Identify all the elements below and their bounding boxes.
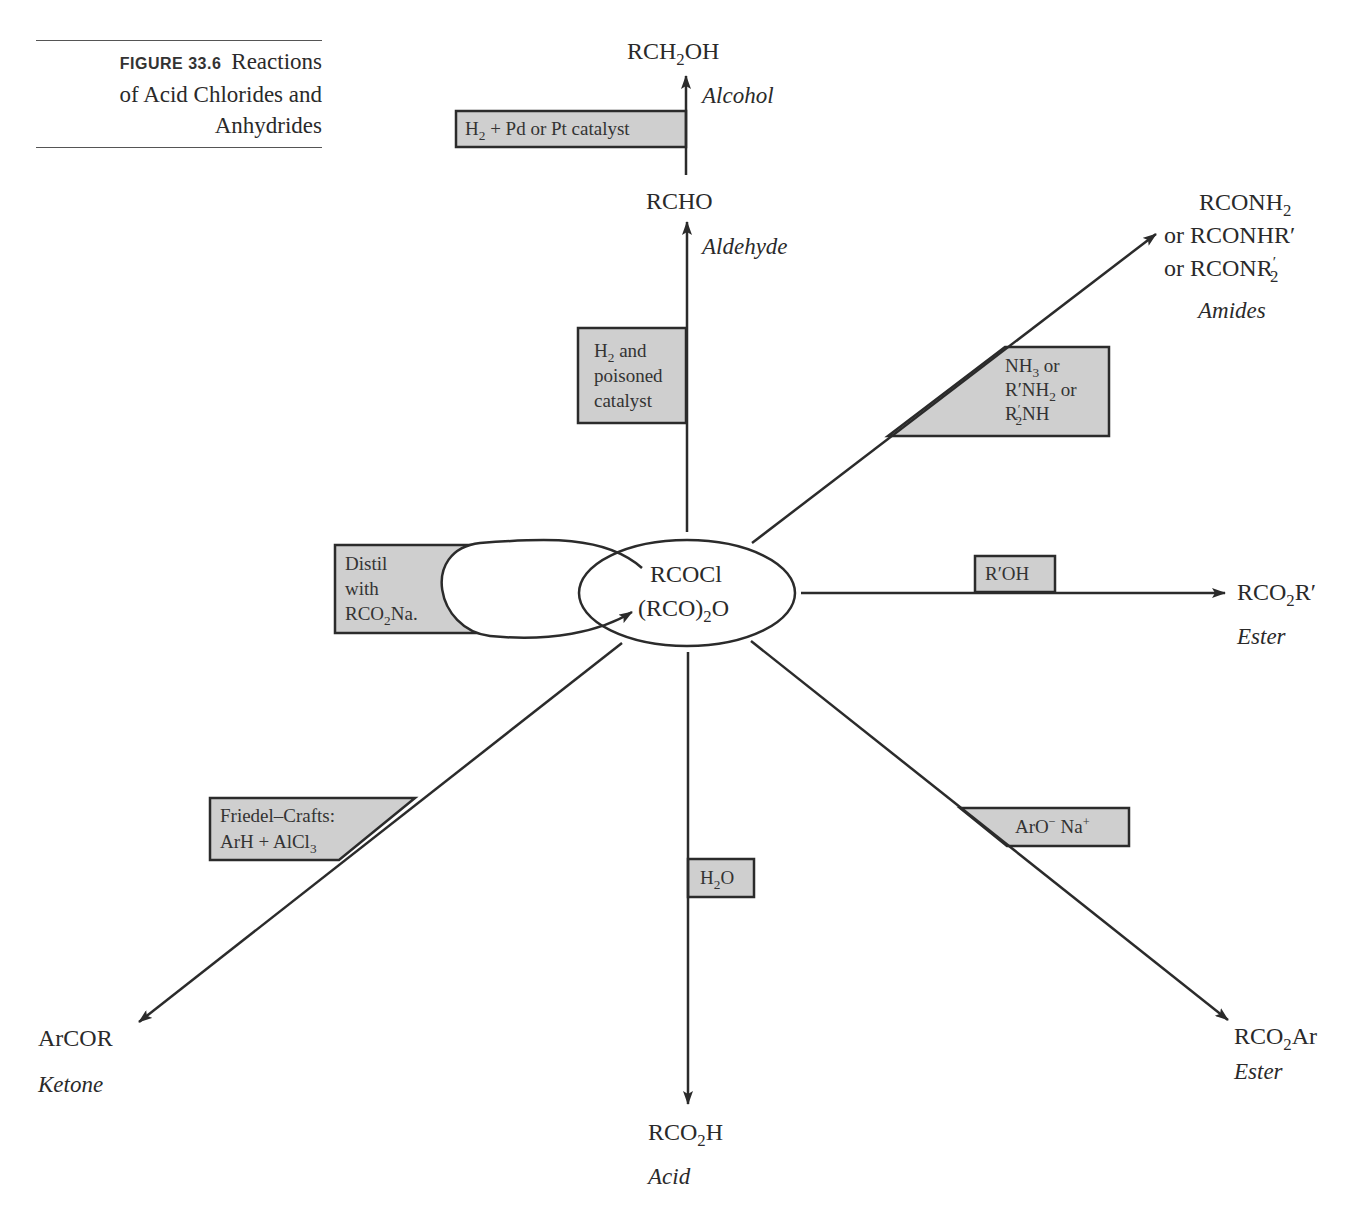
formula-part: H (700, 867, 714, 888)
subscript: 2 (697, 1131, 705, 1150)
subscript: 2 (1270, 267, 1278, 286)
product-alcohol-formula: RCH2OH (627, 37, 719, 65)
product-aldehyde-name: Aldehyde (702, 233, 788, 261)
reagent-line: poisoned (594, 363, 663, 388)
superscript: + (1083, 815, 1090, 829)
formula-part: RCONH (1199, 189, 1283, 215)
formula-part: H (594, 340, 608, 361)
formula-part: + Pd or Pt catalyst (485, 118, 629, 139)
formula-part: H (706, 1119, 723, 1145)
caption-line-2: of Acid Chlorides and (36, 79, 322, 110)
subscript: 3 (310, 841, 317, 856)
reagent-phenoxide: ArO− Na+ (1015, 815, 1090, 839)
subscript: 2 (1049, 389, 1056, 404)
subscript: 2 (1283, 201, 1291, 220)
formula-part: RCO (648, 1119, 697, 1145)
product-ketone-name: Ketone (38, 1071, 103, 1099)
formula-part: Na (1056, 816, 1083, 837)
product-amides-line2: or RCONHR′ (1164, 221, 1295, 249)
product-aldehyde-formula: RCHO (646, 187, 713, 215)
arrow-to-ester-aryl (751, 641, 1228, 1020)
formula-part: RCO (1237, 579, 1286, 605)
reagent-alcohol: R′OH (985, 562, 1029, 586)
product-amides-name: Amides (1198, 297, 1266, 325)
product-ester-alkyl-formula: RCO2R′ (1237, 578, 1316, 606)
reagent-distil: Distil with RCO2Na. (345, 551, 418, 626)
formula-part: ArO (1015, 816, 1049, 837)
formula-part: Ar (1292, 1023, 1317, 1049)
formula-part: RCO (1234, 1023, 1283, 1049)
formula-part: or RCONR (1164, 255, 1273, 281)
subscript: 2 (676, 50, 684, 69)
product-amides-line3: or RCONR′2 (1164, 254, 1279, 282)
product-amides-line1: RCONH2 (1199, 188, 1291, 216)
subscript: 2 (703, 607, 711, 626)
formula-part: (RCO) (638, 595, 703, 621)
formula-part: and (614, 340, 646, 361)
product-alcohol-name: Alcohol (702, 82, 774, 110)
reagent-line: Friedel–Crafts: (220, 803, 335, 829)
reagent-line: Distil (345, 551, 418, 576)
formula-part: R′ (1295, 579, 1316, 605)
reagent-water: H2O (700, 866, 734, 890)
formula-part: R′NH (1005, 379, 1049, 400)
caption-line-3: Anhydrides (36, 110, 322, 141)
formula-part: O (720, 867, 734, 888)
formula-part: NH (1005, 355, 1032, 376)
product-acid-formula: RCO2H (648, 1118, 723, 1146)
formula-part: RCH (627, 38, 676, 64)
subscript: 2 (384, 613, 391, 628)
figure-label: FIGURE 33.6 (120, 55, 222, 72)
superscript: − (1049, 815, 1056, 829)
formula-part: O (712, 595, 729, 621)
figure-caption: FIGURE 33.6Reactions of Acid Chlorides a… (36, 40, 322, 148)
formula-part: H (465, 118, 479, 139)
reagent-amine: NH3 or R′NH2 or R′2NH (1005, 354, 1077, 426)
product-ester-aryl-name: Ester (1234, 1058, 1283, 1086)
center-compound-line1: RCOCl (650, 560, 722, 588)
product-ester-alkyl-name: Ester (1237, 623, 1286, 651)
reagent-line: catalyst (594, 388, 663, 413)
formula-part: RCO (345, 603, 384, 624)
center-compound-line2: (RCO)2O (638, 594, 729, 622)
subscript: 2 (1283, 1035, 1291, 1054)
product-ester-aryl-formula: RCO2Ar (1234, 1022, 1317, 1050)
reagent-friedel-crafts: Friedel–Crafts: ArH + AlCl3 (220, 803, 335, 855)
reagent-line: with (345, 576, 418, 601)
formula-part: or (1039, 355, 1060, 376)
formula-part: ArH + AlCl (220, 831, 310, 852)
product-acid-name: Acid (648, 1163, 690, 1191)
formula-part: NH (1022, 403, 1049, 424)
subscript: 2 (1286, 591, 1294, 610)
formula-part: or (1056, 379, 1077, 400)
caption-line-1: Reactions (231, 49, 322, 74)
formula-part: OH (685, 38, 720, 64)
product-ketone-formula: ArCOR (38, 1024, 113, 1052)
reagent-rosenmund: H2 and poisoned catalyst (594, 338, 663, 413)
formula-part: Na. (391, 603, 418, 624)
reagent-hydrogenation: H2 + Pd or Pt catalyst (465, 117, 630, 141)
